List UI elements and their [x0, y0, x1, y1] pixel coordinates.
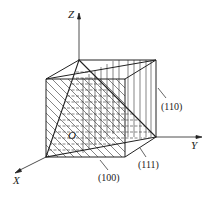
- x-axis-label: X: [12, 174, 21, 186]
- axes: [15, 13, 202, 173]
- x-arrow-icon: [15, 169, 22, 174]
- plane-100-label: (100): [98, 172, 120, 184]
- z-arrow-icon: [78, 13, 81, 19]
- z-axis-label: Z: [68, 8, 75, 20]
- origin-label: O: [68, 129, 76, 141]
- x-axis: [18, 157, 46, 171]
- plane-110-label: (110): [161, 101, 182, 113]
- plane-111-label: (111): [138, 159, 159, 171]
- crystal-planes-diagram: Z Y X O (110) (111) (100): [0, 0, 211, 198]
- y-axis-label: Y: [191, 139, 199, 151]
- plane-100-hatch: [0, 79, 211, 169]
